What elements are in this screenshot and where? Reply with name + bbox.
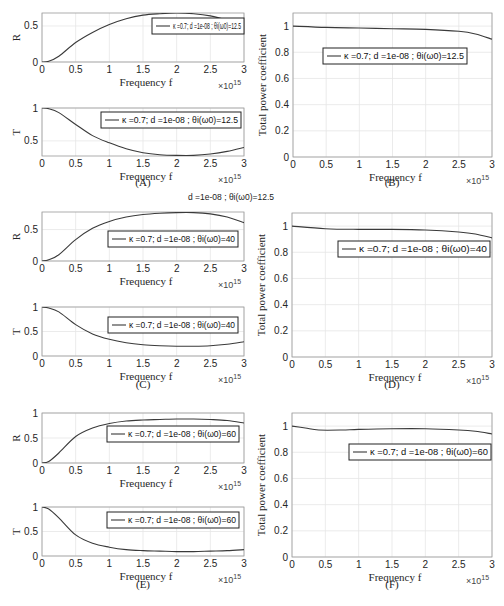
y-tick-label: 1 [32, 502, 38, 513]
y-tick-label: 0.2 [275, 125, 289, 136]
x-tick-label: 2.5 [452, 559, 466, 570]
x-tick-label: 1 [356, 559, 362, 570]
x-tick-label: 0 [39, 358, 45, 369]
x-tick-label: 0.5 [318, 559, 332, 570]
y-axis-label: Total power coefficient [256, 34, 268, 136]
y-axis-label: R [10, 33, 22, 41]
x-tick-label: 3 [241, 263, 247, 274]
y-axis-label: R [10, 232, 22, 240]
y-tick-label: 0.2 [274, 525, 288, 536]
x-tick-label: 1.5 [136, 465, 150, 476]
plot-B: 00.511.522.5300.20.40.60.81Frequency f×1… [256, 13, 495, 186]
y-tick-label: 0.5 [24, 224, 38, 235]
x-tick-label: 0.5 [69, 558, 83, 569]
x-tick-label: 3 [241, 64, 247, 75]
y-tick-label: 0 [32, 458, 38, 469]
x-tick-label: 2.5 [203, 358, 217, 369]
legend-text: κ =0.7; d =1e-08 ; θi(ω0)=40 [359, 244, 487, 254]
y-tick-label: 0.5 [24, 433, 38, 444]
x-axis-label: Frequency f [120, 477, 173, 489]
x-tick-label: 0 [39, 158, 45, 169]
x-tick-label: 2 [174, 64, 180, 75]
y-axis-label: Total power coefficient [255, 234, 267, 336]
x-tick-label: 0 [289, 359, 295, 370]
x-tick-label: 3 [241, 358, 247, 369]
y-axis-label: Total power coefficient [255, 434, 267, 536]
x-tick-label: 1.5 [386, 159, 400, 170]
y-tick-label: 1 [282, 221, 288, 232]
x-tick-label: 2.5 [203, 64, 217, 75]
x-tick-label: 0.5 [318, 359, 332, 370]
x-tick-label: 3 [489, 159, 495, 170]
y-tick-label: 1 [32, 302, 38, 313]
legend-text: κ =0.7; d =1e-08 ; θi(ω0)=60 [128, 515, 236, 525]
plot-D: 00.511.522.5300.20.40.60.81Frequency f×1… [255, 213, 495, 386]
legend: κ =0.7; d =1e-08 ; θi(ω0)=12.5 [323, 48, 467, 64]
x-tick-label: 2.5 [203, 465, 217, 476]
y-tick-label: 0 [32, 551, 38, 562]
x-exponent: ×1015 [466, 374, 489, 386]
y-tick-label: 1 [283, 21, 289, 32]
legend: κ =0.7; d =1e-08 ; θi(ω0)=60 [349, 444, 491, 460]
legend: κ =0.7; d =1e-08 ; θi(ω0)=60 [107, 426, 239, 442]
x-tick-label: 2 [174, 558, 180, 569]
legend: κ =0.7; d =1e-08 ; θi(ω0)=12.5 [101, 112, 241, 128]
x-tick-label: 3 [489, 359, 495, 370]
x-tick-label: 0.5 [69, 465, 83, 476]
x-tick-label: 1.5 [136, 64, 150, 75]
x-tick-label: 0.5 [69, 358, 83, 369]
y-tick-label: 0 [32, 57, 38, 68]
x-exponent: ×1015 [466, 574, 489, 586]
x-exponent: ×1015 [218, 173, 241, 185]
y-tick-label: 1 [282, 421, 288, 432]
y-tick-label: 0.2 [274, 325, 288, 336]
legend: κ =0.7; d =1e-08 ; θi(ω0)=12.5 [152, 18, 244, 34]
y-tick-label: 0.8 [274, 247, 288, 258]
x-tick-label: 2 [423, 559, 429, 570]
y-tick-label: 1 [32, 103, 38, 114]
y-tick-label: 0 [32, 256, 38, 267]
x-tick-label: 0.5 [319, 159, 333, 170]
y-tick-label: 0.5 [24, 326, 38, 337]
stray-legend-text: d =1e-08 ; θi(ω0)=12.5 [188, 192, 274, 202]
x-tick-label: 2 [174, 358, 180, 369]
x-tick-label: 2.5 [452, 159, 466, 170]
x-tick-label: 0 [39, 64, 45, 75]
y-tick-label: 0 [282, 352, 288, 363]
panel-caption-E: (E) [136, 578, 150, 591]
x-tick-label: 2 [174, 263, 180, 274]
x-tick-label: 1 [107, 465, 113, 476]
x-tick-label: 2 [423, 359, 429, 370]
x-tick-label: 0 [39, 558, 45, 569]
x-tick-label: 2.5 [203, 158, 217, 169]
x-exponent: ×1015 [218, 573, 241, 585]
y-tick-label: 0.5 [24, 526, 38, 537]
x-tick-label: 0.5 [69, 263, 83, 274]
y-tick-label: 1 [32, 408, 38, 419]
legend: κ =0.7; d =1e-08 ; θi(ω0)=40 [338, 241, 490, 257]
legend-text: κ =0.7; d =1e-08 ; θi(ω0)=12.5 [122, 115, 238, 125]
plot-F: 00.511.522.5300.20.40.60.81Frequency f×1… [255, 413, 495, 586]
plot-C-R: 00.511.522.5300.5Frequency f×1015Rκ =0.7… [10, 212, 247, 290]
x-tick-label: 1 [107, 358, 113, 369]
y-axis-label: T [10, 528, 22, 535]
x-tick-label: 3 [241, 558, 247, 569]
y-tick-label: 0 [282, 552, 288, 563]
plot-E-R: 00.511.522.5300.51Frequency f×1015Rκ =0.… [10, 408, 247, 493]
legend-text: κ =0.7; d =1e-08 ; θi(ω0)=40 [129, 234, 235, 244]
legend: κ =0.7; d =1e-08 ; θi(ω0)=60 [107, 512, 239, 528]
panel-caption-C: (C) [136, 378, 151, 391]
plot-A-R: 00.511.522.5300.5Frequency f×1015Rκ =0.7… [10, 13, 247, 91]
x-exponent: ×1015 [218, 373, 241, 385]
x-exponent: ×1015 [218, 278, 241, 290]
x-tick-label: 2.5 [452, 359, 466, 370]
legend-text: κ =0.7; d =1e-08 ; θi(ω0)=60 [370, 447, 488, 457]
y-tick-label: 0.6 [274, 273, 288, 284]
x-tick-label: 2 [174, 158, 180, 169]
y-tick-label: 0.4 [274, 499, 288, 510]
x-tick-label: 0 [289, 559, 295, 570]
x-tick-label: 1.5 [136, 358, 150, 369]
plot-A-T: 00.511.522.530.51Frequency f×1015Tκ =0.7… [10, 103, 247, 186]
x-tick-label: 1 [107, 64, 113, 75]
x-tick-label: 2.5 [203, 558, 217, 569]
